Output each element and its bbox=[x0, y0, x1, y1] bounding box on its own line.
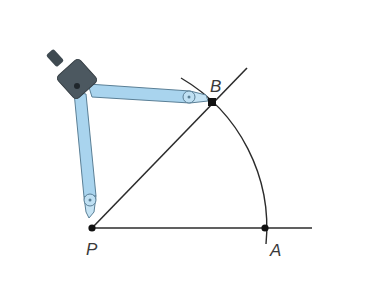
label-a: A bbox=[269, 241, 281, 260]
point-b bbox=[208, 98, 216, 106]
compass-construction-diagram: P A B bbox=[0, 0, 370, 300]
label-b: B bbox=[210, 77, 221, 96]
label-p: P bbox=[86, 240, 98, 259]
compass-leg-left bbox=[74, 92, 96, 197]
diagram-canvas: P A B bbox=[0, 0, 370, 300]
point-a bbox=[261, 224, 268, 231]
compass-handle bbox=[46, 49, 64, 68]
compass-leg-right bbox=[88, 84, 190, 103]
point-p bbox=[88, 224, 95, 231]
